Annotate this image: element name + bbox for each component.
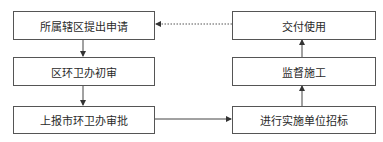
node-city-approval: 上报市环卫办审批 — [13, 106, 155, 134]
node-label: 监督施工 — [282, 64, 326, 80]
node-label: 所属辖区提出申请 — [40, 18, 128, 34]
node-label: 进行实施单位招标 — [260, 112, 348, 128]
node-district-initial-review: 区环卫办初审 — [13, 57, 155, 86]
node-district-apply: 所属辖区提出申请 — [13, 11, 155, 40]
node-label: 上报市环卫办审批 — [40, 112, 128, 128]
node-delivery: 交付使用 — [232, 11, 376, 40]
node-label: 交付使用 — [282, 18, 326, 34]
node-label: 区环卫办初审 — [51, 64, 117, 80]
node-contractor-bidding: 进行实施单位招标 — [232, 106, 376, 134]
node-supervise-construction: 监督施工 — [232, 57, 376, 86]
